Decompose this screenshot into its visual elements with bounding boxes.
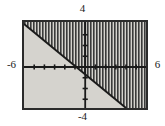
axis-label-left: -6 — [2, 59, 21, 70]
axis-label-bottom: -4 — [0, 111, 165, 122]
axis-label-right: 6 — [150, 59, 165, 70]
inequality-graph-figure: 4 -6 6 -4 — [0, 0, 165, 126]
plot-canvas — [24, 22, 146, 108]
axis-label-top: 4 — [0, 3, 165, 14]
plot-frame — [22, 20, 148, 110]
